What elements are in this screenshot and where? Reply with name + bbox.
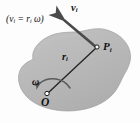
rigid-body-shape [19,29,131,111]
angular-velocity-label: ω [32,77,39,87]
velocity-equation-label: (vi = ri ω) [6,15,44,25]
point-pi-marker [95,45,99,49]
radius-label: ri [62,52,68,63]
point-o-label: O [41,97,49,109]
point-pi-label: Pi [103,41,112,53]
physics-rotation-figure: (vi = ri ω) vi Pi ri ω O [0,0,140,123]
velocity-vector-label: vi [71,3,77,14]
